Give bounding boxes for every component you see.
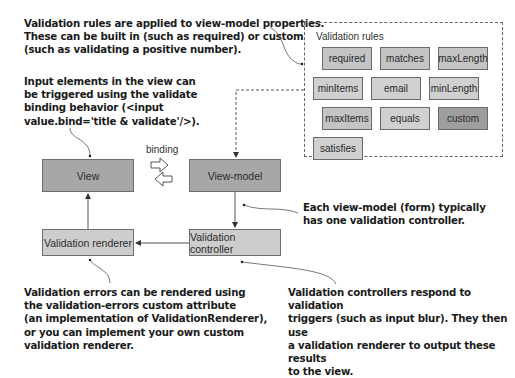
renderer-note-pointer (90, 260, 110, 283)
controller-per-form-pointer (244, 205, 298, 213)
binding-arrows-icon (151, 158, 172, 186)
input-note-pointer (70, 128, 90, 156)
rules-to-viewmodel-connector (236, 90, 304, 157)
controller-note-pointer (242, 262, 336, 284)
rules-note-pointer (270, 27, 302, 64)
